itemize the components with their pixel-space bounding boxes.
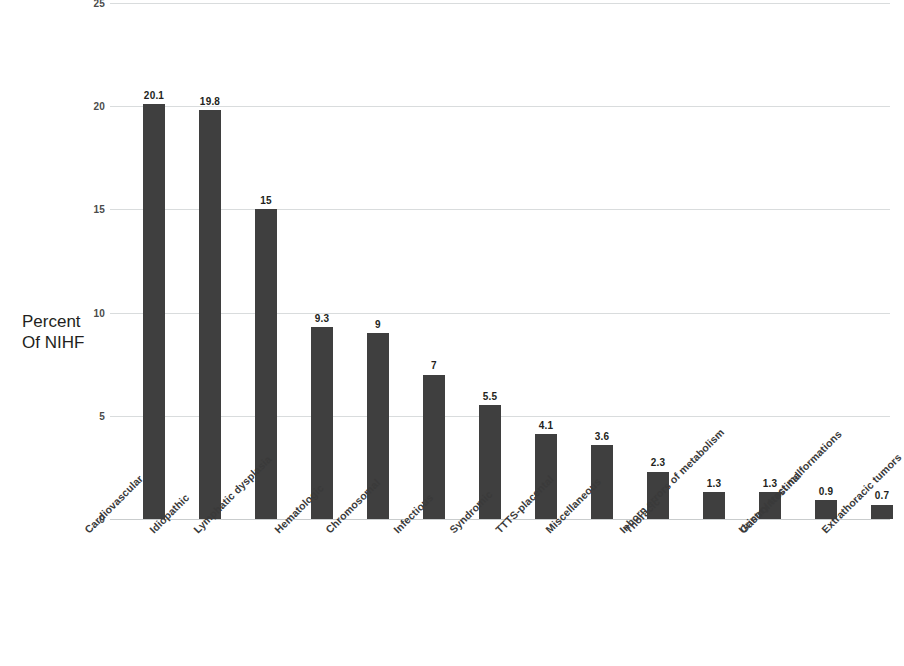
- y-tick-25: 25: [65, 0, 105, 9]
- bar-value-label: 19.8: [200, 96, 220, 107]
- bar[interactable]: [703, 492, 725, 519]
- bar-value-label: 3.6: [595, 431, 610, 442]
- y-axis-title-line-2: Of NIHF: [22, 333, 114, 354]
- bar-value-label: 9: [375, 319, 381, 330]
- bar-value-label: 1.3: [707, 478, 722, 489]
- y-axis-tick-labels: 25 20 15 10 5 0: [60, 3, 105, 519]
- bars-layer: 20.1 19.8 15 9.3 9 7 5.5 4.1: [110, 3, 890, 519]
- bar-value-label: 15: [260, 195, 272, 206]
- y-axis-title-line-1: Percent: [22, 312, 114, 333]
- y-tick-15: 15: [65, 204, 105, 215]
- y-tick-5: 5: [65, 410, 105, 421]
- bar-value-label: 5.5: [483, 391, 498, 402]
- bar-value-label: 2.3: [651, 457, 666, 468]
- bar-value-label: 20.1: [144, 90, 164, 101]
- bar-value-label: 4.1: [539, 420, 554, 431]
- bar-value-label: 0.9: [819, 486, 834, 497]
- y-axis-title: Percent Of NIHF: [22, 312, 114, 353]
- caption: [0, 656, 899, 666]
- bar[interactable]: [199, 110, 221, 519]
- bar-value-label: 9.3: [315, 313, 330, 324]
- bar[interactable]: [143, 104, 165, 519]
- bar-value-label: 0.7: [875, 490, 890, 501]
- bar-value-label: 7: [431, 360, 437, 371]
- y-tick-20: 20: [65, 101, 105, 112]
- bar[interactable]: [871, 505, 893, 519]
- x-axis-category-labels: Cardiovascular Idiopathic Lymphatic dysp…: [110, 521, 890, 666]
